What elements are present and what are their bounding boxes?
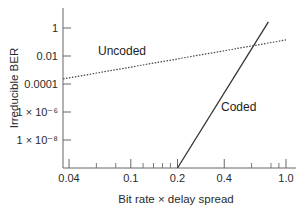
ber-chart: 10.010.00011 × 10⁻⁶1 × 10⁻⁸ 0.040.10.20.…: [0, 0, 303, 211]
y-tick-label: 1 × 10⁻⁶: [17, 106, 58, 118]
uncoded-label: Uncoded: [98, 44, 146, 58]
x-minor-ticks: [96, 163, 279, 168]
x-tick-label: 0.04: [58, 172, 79, 184]
x-ticks: 0.040.10.20.41.0: [58, 159, 293, 184]
x-tick-label: 1.0: [278, 172, 293, 184]
coded-series-line: [178, 22, 269, 168]
uncoded-series-line: [63, 40, 286, 79]
x-tick-label: 0.1: [123, 172, 138, 184]
y-axis-title: Irreducible BER: [8, 48, 20, 129]
y-tick-label: 1 × 10⁻⁸: [16, 134, 58, 146]
x-tick-label: 0.2: [170, 172, 185, 184]
y-tick-label: 1: [52, 22, 58, 34]
coded-label: Coded: [221, 100, 256, 114]
y-tick-label: 0.01: [37, 50, 58, 62]
y-tick-label: 0.0001: [24, 78, 58, 90]
x-tick-label: 0.4: [217, 172, 232, 184]
x-axis-title: Bit rate × delay spread: [118, 193, 233, 205]
